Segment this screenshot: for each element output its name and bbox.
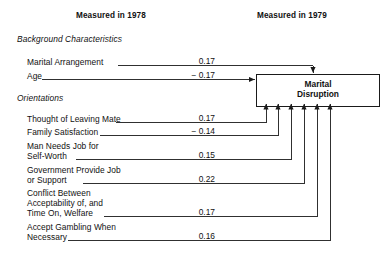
- predictor-label-government-provide-job-line1: Government Provide Job: [27, 165, 121, 175]
- predictor-label-marital-arrangement: Marital Arrangement: [27, 57, 103, 67]
- coefficient-age: − 0.17: [155, 70, 215, 80]
- predictor-label-age: Age: [27, 71, 42, 81]
- path-diagram-figure: Measured in 1978 Measured in 1979 Backgr…: [0, 0, 389, 256]
- section-heading-orientations: Orientations: [17, 93, 63, 103]
- coefficient-family-satisfaction: − 0.14: [155, 126, 215, 136]
- outcome-box-title-line1: Marital: [256, 79, 380, 90]
- predictor-label-man-needs-job-line1: Man Needs Job for: [27, 141, 99, 151]
- predictor-label-family-satisfaction: Family Satisfaction: [27, 127, 98, 137]
- predictor-label-government-provide-job-line2: or Support: [27, 175, 67, 185]
- predictor-label-accept-gambling-line1: Accept Gambling When: [27, 222, 116, 232]
- column-header-right: Measured in 1979: [257, 11, 327, 21]
- coefficient-government-provide-job: 0.22: [155, 174, 215, 184]
- predictor-label-conflict-welfare-line2: Acceptability of, and: [27, 198, 103, 208]
- outcome-box-title-line2: Disruption: [256, 89, 380, 100]
- predictor-label-man-needs-job-line2: Self-Worth: [27, 151, 67, 161]
- predictor-label-thought-of-leaving-mate: Thought of Leaving Mate: [27, 114, 121, 124]
- predictor-label-conflict-welfare-line1: Conflict Between: [27, 188, 91, 198]
- section-heading-background: Background Characteristics: [17, 34, 122, 44]
- predictor-label-accept-gambling-line2: Necessary: [27, 232, 67, 242]
- coefficient-accept-gambling: 0.16: [155, 231, 215, 241]
- coefficient-conflict-welfare: 0.17: [155, 207, 215, 217]
- coefficient-marital-arrangement: 0.17: [155, 56, 215, 66]
- coefficient-thought-of-leaving-mate: 0.17: [155, 113, 215, 123]
- column-header-left: Measured in 1978: [76, 11, 146, 21]
- coefficient-man-needs-job: 0.15: [155, 150, 215, 160]
- predictor-label-conflict-welfare-line3: Time On, Welfare: [27, 208, 93, 218]
